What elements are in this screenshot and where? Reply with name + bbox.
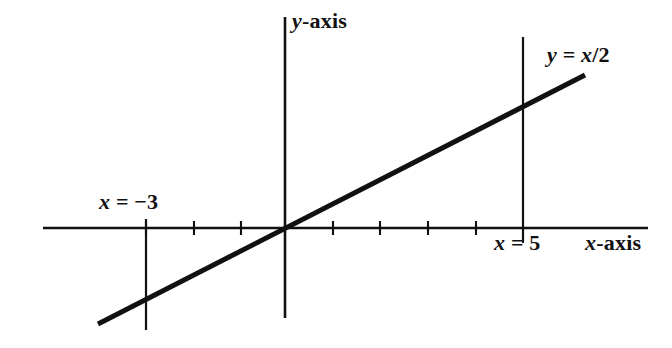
annotation-x-neg3-variable: x xyxy=(99,189,110,214)
annotation-x-equals-neg3: x = −3 xyxy=(99,191,158,213)
x-axis-label-suffix: -axis xyxy=(596,230,641,255)
line-equation-lhs: y xyxy=(547,42,557,67)
line-equation-rhs-variable: x xyxy=(581,42,592,67)
function-line-y-equals-x-over-2 xyxy=(98,75,585,324)
y-axis-label-variable: y xyxy=(292,8,302,33)
annotation-x-5-value: = 5 xyxy=(505,230,540,255)
annotation-x-neg3-value: = −3 xyxy=(110,189,158,214)
y-axis-label: y-axis xyxy=(292,10,347,32)
x-axis-label: x-axis xyxy=(585,232,641,254)
line-equation-operator: = xyxy=(557,42,581,67)
line-equation-label: y = x/2 xyxy=(547,44,610,66)
x-axis-label-variable: x xyxy=(585,230,596,255)
annotation-x-equals-5: x = 5 xyxy=(494,232,541,254)
line-equation-rhs-tail: /2 xyxy=(592,42,610,67)
y-axis-label-suffix: -axis xyxy=(302,8,347,33)
figure-canvas: y-axis x-axis y = x/2 x = −3 x = 5 xyxy=(0,0,672,348)
annotation-x-5-variable: x xyxy=(494,230,505,255)
